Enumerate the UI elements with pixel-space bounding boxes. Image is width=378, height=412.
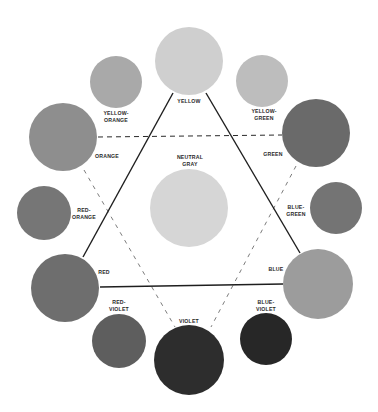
violet-label: VIOLET [179,318,200,324]
blue-green-swatch [310,182,362,234]
neutral-gray-swatch [150,169,228,247]
color-swatches [17,27,362,395]
blue-label: BLUE [269,266,284,272]
neutral-gray-label: NEUTRALGRAY [177,154,204,167]
blue-violet-swatch [240,313,292,365]
red-label: RED [98,269,110,275]
yellow-swatch [155,27,223,95]
orange-swatch [29,103,97,171]
violet-swatch [154,325,224,395]
primary-triangle-edge [100,284,283,287]
blue-green-label: BLUE-GREEN [286,204,306,217]
green-label: GREEN [263,151,283,157]
blue-swatch [283,249,353,319]
red-violet-label: RED-VIOLET [109,299,130,312]
yellow-green-label: YELLOW-GREEN [251,108,276,121]
red-orange-swatch [17,186,71,240]
secondary-triangle-edge [211,166,296,327]
red-violet-swatch [92,314,146,368]
red-swatch [31,254,99,322]
yellow-orange-swatch [90,56,142,108]
orange-label: ORANGE [95,153,119,159]
color-wheel-diagram: YELLOWYELLOW-ORANGEYELLOW-GREENORANGEGRE… [0,0,378,412]
yellow-label: YELLOW [177,98,200,104]
green-swatch [282,99,350,167]
blue-violet-label: BLUE-VIOLET [256,299,277,312]
red-orange-label: RED-ORANGE [72,207,96,220]
secondary-triangle-edge [98,135,282,137]
yellow-orange-label: YELLOW-ORANGE [103,110,128,123]
yellow-green-swatch [236,55,288,107]
